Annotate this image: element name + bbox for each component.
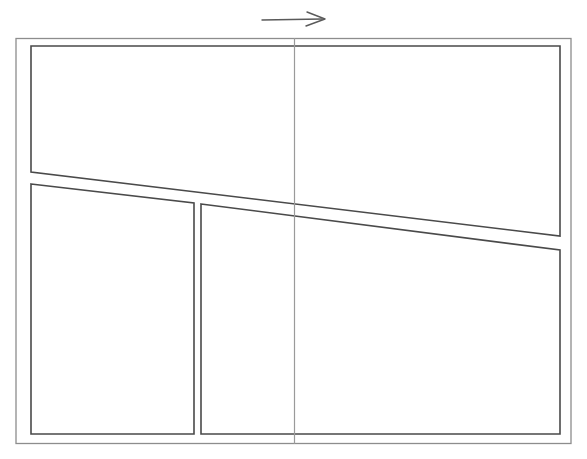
lower-left-panel-fill (31, 184, 194, 434)
panel-layout-diagram (0, 0, 587, 459)
direction-arrow-shaft (262, 19, 322, 20)
diagram-canvas: Panel layout line diagram right upper-pa… (0, 0, 587, 459)
